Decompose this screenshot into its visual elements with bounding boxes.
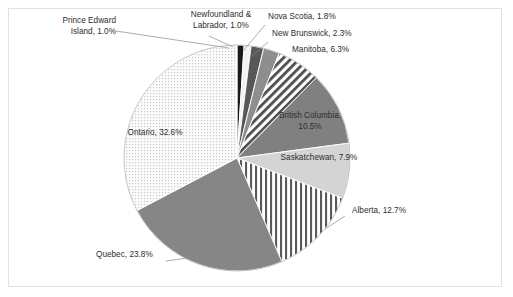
slice-label-saskatchewan: Saskatchewan, 7.9%	[264, 153, 374, 164]
slice-label-alberta: Alberta, 12.7%	[352, 206, 452, 217]
slice-label-british-columbia: British Columbia, 10.5%	[263, 111, 357, 132]
slice-label-prince-edward-island: Prince Edward Island, 1.0%	[28, 16, 116, 37]
slice-label-new-brunswick: New Brunswick, 2.3%	[272, 29, 402, 40]
slice-label-nova-scotia: Nova Scotia, 1.8%	[268, 12, 388, 23]
slice-label-quebec: Quebec, 23.8%	[96, 250, 206, 261]
slice-label-manitoba: Manitoba, 6.3%	[292, 45, 402, 56]
pie-chart-figure: Prince Edward Island, 1.0% Newfoundland …	[0, 0, 513, 297]
leader-line-prince-edward-island	[116, 31, 229, 48]
pie-chart-canvas	[0, 0, 513, 297]
slice-label-newfoundland-labrador: Newfoundland & Labrador, 1.0%	[175, 10, 267, 31]
slice-label-ontario: Ontario, 32.6%	[105, 128, 205, 139]
